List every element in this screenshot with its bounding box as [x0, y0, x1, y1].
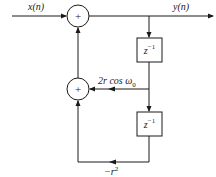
adder-top-symbol: + [75, 11, 81, 22]
delay-2-label: z−1 [144, 118, 155, 129]
block-diagram: x(n) y(n) + + z−1 z−1 2r cos ω0 −r2 [0, 0, 216, 177]
gain-2-label: −r2 [104, 166, 118, 177]
gain-1-main: 2r cos ω [98, 75, 132, 86]
gain-1-label: 2r cos ω0 [98, 76, 136, 89]
adder-bottom-symbol: + [75, 84, 81, 95]
delay-2-exp: −1 [148, 117, 155, 125]
gain-2-main: −r [104, 166, 115, 177]
delay-1-exp: −1 [148, 43, 155, 51]
delay-1-label: z−1 [144, 44, 155, 55]
gain-1-sub: 0 [132, 81, 136, 89]
output-label: y(n) [173, 2, 189, 12]
input-label: x(n) [28, 2, 44, 12]
gain-2-arrow [109, 160, 116, 165]
gain-2-sup: 2 [115, 165, 119, 173]
